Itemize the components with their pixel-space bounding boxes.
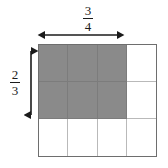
grid-cell xyxy=(39,45,68,82)
fraction-two-thirds: 2 3 xyxy=(10,68,21,97)
grid-cell xyxy=(39,82,68,119)
grid-cell xyxy=(68,82,97,119)
horizontal-double-arrow-icon xyxy=(36,28,126,42)
grid-cell xyxy=(68,119,97,156)
grid-cell xyxy=(98,82,127,119)
grid-cell xyxy=(127,45,156,82)
denominator: 3 xyxy=(10,82,21,97)
numerator: 3 xyxy=(83,4,94,18)
grid-cell xyxy=(39,119,68,156)
grid-cell xyxy=(68,45,97,82)
vertical-double-arrow-icon xyxy=(24,42,38,124)
grid-cell xyxy=(98,119,127,156)
area-model-grid xyxy=(38,44,157,157)
fraction-area-model-figure: 3 4 2 3 xyxy=(0,0,168,168)
grid-cell xyxy=(127,119,156,156)
grid-cell xyxy=(98,45,127,82)
grid-cell xyxy=(127,82,156,119)
numerator: 2 xyxy=(10,68,21,82)
